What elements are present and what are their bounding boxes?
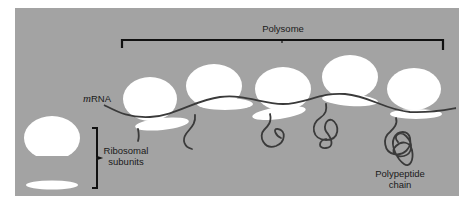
free-large-subunit — [24, 116, 80, 160]
subunit-bracket — [92, 128, 100, 188]
large-subunit — [322, 55, 378, 99]
polypeptide-5 — [385, 118, 412, 165]
ribosome-1 — [123, 77, 189, 133]
polysome-label: Polysome — [258, 23, 308, 34]
polypeptide-1 — [138, 129, 139, 141]
polysome-text: Polysome — [262, 23, 304, 34]
ribosomal-line1: Ribosomal — [102, 145, 150, 156]
polysome-bracket — [122, 40, 443, 50]
ribosome-3 — [251, 67, 311, 123]
mrna-suffix: RNA — [91, 93, 111, 104]
mrna-label: mRNA — [83, 93, 111, 104]
mrna-prefix: m — [83, 92, 91, 104]
polypeptide-line2: chain — [370, 179, 430, 190]
free-small-subunit — [26, 181, 78, 190]
ribosomal-line2: subunits — [102, 156, 150, 167]
polypeptide-chain-label: Polypeptide chain — [370, 168, 430, 190]
free-ribosomal-subunits — [24, 116, 80, 190]
large-subunit — [387, 68, 441, 110]
polypeptide-4 — [314, 104, 338, 148]
polypeptide-line1: Polypeptide — [370, 168, 430, 179]
ribosomal-subunits-label: Ribosomal subunits — [102, 145, 150, 167]
